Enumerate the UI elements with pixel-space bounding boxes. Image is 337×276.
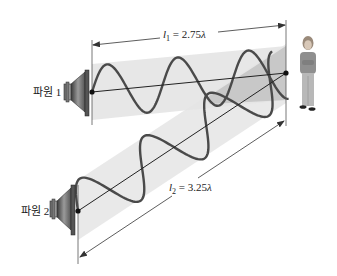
- speaker-1-icon: [64, 70, 89, 116]
- listener-point: [283, 70, 288, 75]
- source-2-label: 파원 2: [21, 205, 49, 217]
- l1-label: l1 = 2.75λ: [163, 28, 206, 43]
- speaker-2-icon: [50, 185, 75, 235]
- l1-dimension-right: [218, 25, 285, 32]
- listener-person-icon: [300, 36, 317, 111]
- interference-diagram: l1 = 2.75λ l2 = 3.25λ 파원 1 파원 2: [0, 0, 337, 276]
- source-1-label: 파원 1: [33, 86, 61, 98]
- l1-dimension-left: [93, 38, 160, 45]
- source-1-point: [89, 89, 94, 94]
- l2-label: l2 = 3.25λ: [169, 181, 212, 196]
- source-2-point: [75, 208, 80, 213]
